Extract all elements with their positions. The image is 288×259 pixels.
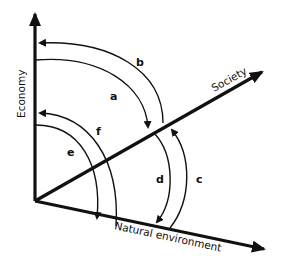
natural-environment-axis (35, 201, 264, 249)
society-axis (35, 72, 262, 201)
arc-label-a: a (110, 90, 117, 103)
arc-label-e: e (67, 146, 74, 159)
arc-label-f: f (96, 125, 101, 138)
arc-label-c: c (196, 173, 203, 186)
arc-label-d: d (156, 173, 164, 186)
arc-c (170, 130, 187, 228)
arc-a (36, 59, 148, 127)
economy-label: Economy (15, 70, 27, 118)
arc-label-b: b (136, 56, 144, 69)
three-dimensions-diagram: Economy Society Natural environment a b … (0, 0, 288, 259)
